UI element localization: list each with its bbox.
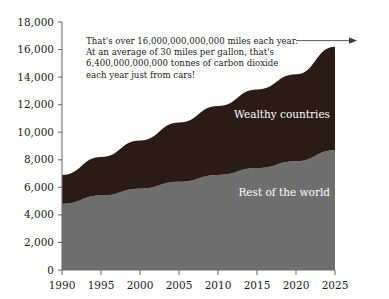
series-label-rest-of-the-world: Rest of the world (238, 186, 330, 198)
y-axis-tick-label: 4,000 (24, 208, 54, 220)
x-axis-tick-label: 2000 (127, 279, 154, 291)
annotation-line: That's over 16,000,000,000,000 miles eac… (86, 36, 298, 46)
x-axis-tick-label: 2025 (322, 279, 349, 291)
y-axis-tick-labels: 02,0004,0006,0008,00010,00012,00014,0001… (17, 16, 54, 276)
y-axis-tick-label: 10,000 (17, 126, 54, 138)
x-axis-tick-label: 2015 (244, 279, 271, 291)
annotation-line: 6,400,000,000,000 tonnes of carbon dioxi… (86, 58, 278, 68)
x-axis-tick-label: 2020 (283, 279, 310, 291)
x-axis-tick-label: 1995 (88, 279, 115, 291)
annotation-line: At an average of 30 miles per gallon, th… (85, 47, 274, 57)
x-axis-tick-label: 2005 (166, 279, 193, 291)
y-axis-tick-label: 18,000 (17, 16, 54, 28)
y-axis-tick-label: 8,000 (24, 153, 54, 165)
y-axis-tick-label: 2,000 (24, 236, 54, 248)
x-axis-tick-label: 1990 (49, 279, 76, 291)
stacked-area-chart: 02,0004,0006,0008,00010,00012,00014,0001… (0, 0, 389, 299)
x-axis-tick-labels: 19901995200020052010201520202025 (49, 279, 349, 291)
series-label-wealthy-countries: Wealthy countries (234, 108, 330, 120)
annotation-arrow-head (349, 38, 357, 44)
y-axis-tick-label: 6,000 (24, 181, 54, 193)
x-axis-tick-label: 2010 (205, 279, 232, 291)
y-axis-tick-label: 16,000 (17, 43, 54, 55)
y-axis-tick-label: 12,000 (17, 98, 54, 110)
area-series-layer (62, 47, 335, 270)
annotation-line: each year just from cars! (86, 70, 195, 80)
chart-canvas: 02,0004,0006,0008,00010,00012,00014,0001… (0, 0, 389, 299)
y-axis-tick-label: 0 (47, 264, 54, 276)
y-axis-tick-label: 14,000 (17, 71, 54, 83)
